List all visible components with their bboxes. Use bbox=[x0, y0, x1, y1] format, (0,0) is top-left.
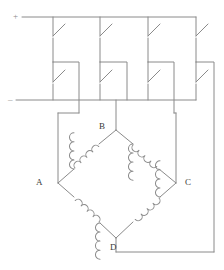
node-label-b: B bbox=[99, 122, 105, 131]
bridge-arm-ab-coil bbox=[54, 132, 92, 170]
positive-rail-marker: + bbox=[13, 12, 18, 21]
schematic-coil-overlays bbox=[72, 144, 161, 223]
coil-ab-bumps bbox=[72, 144, 98, 168]
bridge-arm-bc-lead-lower bbox=[159, 169, 176, 183]
switch-bottom-2-blade bbox=[100, 70, 112, 82]
bridge-arm-ab-lead-lower bbox=[58, 169, 74, 183]
interconnect-bar-3 bbox=[148, 62, 174, 113]
coil-da-bumps bbox=[75, 198, 101, 222]
switch-bottom-1-blade bbox=[53, 70, 65, 82]
circuit-diagram-canvas: + – A B C D bbox=[0, 0, 224, 270]
node-label-c: C bbox=[185, 178, 191, 187]
circuit-schematic-svg bbox=[0, 0, 224, 270]
negative-rail-marker: – bbox=[8, 95, 13, 104]
bridge-arm-ab-lead-upper bbox=[99, 130, 116, 144]
bridge-arm-cd-coil bbox=[140, 160, 178, 198]
interconnect-bar-1 bbox=[53, 62, 79, 113]
bridge-arm-bc-lead-upper bbox=[116, 130, 133, 144]
switch-bottom-4-blade bbox=[196, 70, 208, 82]
switch-top-3-blade bbox=[148, 24, 160, 36]
switch-top-4-blade bbox=[196, 24, 208, 36]
schematic-wires bbox=[16, 17, 214, 260]
bridge-arm-cd-lead-lower bbox=[116, 222, 133, 238]
coil-cd-bumps bbox=[135, 198, 161, 222]
interconnect-bar-2 bbox=[100, 62, 127, 100]
node-label-a: A bbox=[36, 178, 43, 187]
bridge-arm-da-lead-upper bbox=[58, 183, 74, 197]
interconnect-bar-4 bbox=[196, 62, 214, 252]
switch-top-2-blade bbox=[100, 24, 112, 36]
switch-top-1-blade bbox=[53, 24, 65, 36]
coil-bc-bumps bbox=[130, 145, 156, 169]
bridge-arm-da-lead-lower bbox=[100, 223, 116, 238]
switch-bottom-3-blade bbox=[148, 70, 160, 82]
node-label-d: D bbox=[110, 243, 117, 252]
bridge-arm-cd-lead-upper bbox=[160, 183, 176, 197]
